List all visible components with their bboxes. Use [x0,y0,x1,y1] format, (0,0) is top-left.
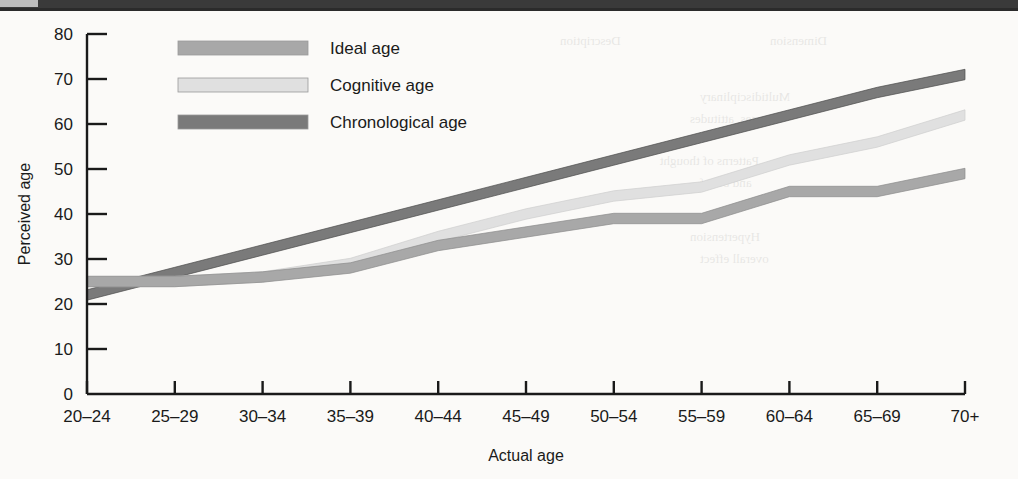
chart-figure: 01020304050607080 20–2425–2930–3435–3940… [0,11,1018,479]
x-tick-label: 35–39 [327,407,374,426]
y-tick-label: 70 [54,70,73,89]
x-tick-label: 45–49 [502,407,549,426]
x-tick-label: 60–64 [766,407,813,426]
x-axis-label: Actual age [488,447,564,464]
x-tick-label: 25–29 [151,407,198,426]
y-tick-label: 30 [54,250,73,269]
legend-label: Ideal age [330,39,400,58]
legend-swatch [178,41,308,55]
legend-swatch [178,78,308,92]
x-tick-label: 55–59 [678,407,725,426]
chart-legend: Ideal ageCognitive ageChronological age [178,39,467,132]
x-axis-ticks: 20–2425–2930–3435–3940–4445–4950–5455–59… [63,381,979,426]
y-tick-label: 80 [54,25,73,44]
x-tick-label: 50–54 [590,407,637,426]
x-tick-label: 40–44 [415,407,462,426]
x-tick-label: 70+ [951,407,980,426]
page-top-tab [0,0,38,7]
legend-swatch [178,115,308,129]
perceived-age-line-chart: 01020304050607080 20–2425–2930–3435–3940… [0,11,1018,479]
chart-series-bands [87,69,965,300]
x-tick-label: 30–34 [239,407,286,426]
legend-label: Chronological age [330,113,467,132]
x-tick-label: 20–24 [63,407,110,426]
y-tick-label: 20 [54,295,73,314]
y-tick-label: 60 [54,115,73,134]
y-tick-label: 10 [54,340,73,359]
page-root: DescriptionDimensionMultidisciplinarycha… [0,0,1018,479]
page-top-bar [0,0,1018,8]
x-tick-label: 65–69 [854,407,901,426]
y-axis-ticks: 01020304050607080 [54,25,107,404]
y-axis-label: Perceived age [16,163,33,265]
y-tick-label: 0 [64,385,73,404]
y-tick-label: 50 [54,160,73,179]
y-tick-label: 40 [54,205,73,224]
legend-label: Cognitive age [330,76,434,95]
series-band-chronological-age [87,69,965,300]
